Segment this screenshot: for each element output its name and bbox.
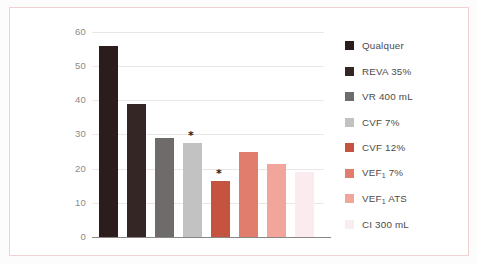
legend-item-vr-400ml: VR 400 mL — [345, 84, 465, 110]
bar-vef1-ats — [267, 164, 286, 237]
legend-swatch-icon-vef1-ats — [345, 194, 354, 203]
chart-legend: Qualquer REVA 35% VR 400 mL CVF 7% CVF 1… — [345, 33, 465, 237]
bar-cvf-7 — [183, 143, 202, 237]
legend-swatch-icon-cvf-12 — [345, 143, 354, 152]
y-tick-10: 10 — [60, 197, 86, 208]
legend-swatch-icon-cvf-7 — [345, 118, 354, 127]
legend-label-reva-35: REVA 35% — [362, 66, 411, 77]
y-tick-60: 60 — [60, 26, 86, 37]
chart-figure: 60 50 40 30 20 10 0 * * Qualquer — [0, 0, 478, 264]
legend-label-vef1-ats-main: VEF — [362, 193, 382, 204]
legend-label-vef1-ats: VEF1 ATS — [362, 193, 407, 205]
legend-label-cvf-12: CVF 12% — [362, 142, 405, 153]
legend-item-cvf-7: CVF 7% — [345, 110, 465, 136]
legend-item-cvf-12: CVF 12% — [345, 135, 465, 161]
bar-series: * * — [92, 32, 324, 237]
bar-vef1-7 — [239, 152, 258, 237]
legend-swatch-icon-vef1-7 — [345, 169, 354, 178]
legend-label-vef1-7-tail: 7% — [386, 167, 403, 178]
significance-star-cvf-7: * — [188, 130, 194, 141]
legend-item-qualquer: Qualquer — [345, 33, 465, 59]
bar-reva-35 — [127, 104, 146, 237]
legend-label-ci-300ml: CI 300 mL — [362, 219, 409, 230]
significance-star-cvf-12: * — [216, 168, 222, 179]
y-tick-50: 50 — [60, 60, 86, 71]
y-tick-20: 20 — [60, 163, 86, 174]
legend-label-vef1-ats-tail: ATS — [386, 193, 407, 204]
legend-swatch-icon-qualquer — [345, 41, 354, 50]
x-axis-line — [92, 237, 331, 238]
legend-label-vef1-7: VEF1 7% — [362, 167, 403, 179]
bar-ci-300ml — [295, 172, 314, 237]
legend-item-vef1-ats: VEF1 ATS — [345, 186, 465, 212]
legend-label-qualquer: Qualquer — [362, 40, 404, 51]
bar-qualquer — [99, 46, 118, 237]
legend-label-vr-400ml: VR 400 mL — [362, 91, 413, 102]
y-tick-30: 30 — [60, 128, 86, 139]
bar-vr-400ml — [155, 138, 174, 237]
legend-label-cvf-7: CVF 7% — [362, 117, 400, 128]
legend-item-reva-35: REVA 35% — [345, 59, 465, 85]
y-axis-tick-labels: 60 50 40 30 20 10 0 — [60, 32, 86, 237]
bar-cvf-12 — [211, 181, 230, 237]
legend-label-vef1-7-main: VEF — [362, 167, 382, 178]
legend-swatch-icon-reva-35 — [345, 67, 354, 76]
y-tick-0: 0 — [60, 231, 86, 242]
y-tick-40: 40 — [60, 94, 86, 105]
legend-item-vef1-7: VEF1 7% — [345, 161, 465, 187]
legend-item-ci-300ml: CI 300 mL — [345, 212, 465, 238]
legend-swatch-icon-ci-300ml — [345, 220, 354, 229]
legend-swatch-icon-vr-400ml — [345, 92, 354, 101]
